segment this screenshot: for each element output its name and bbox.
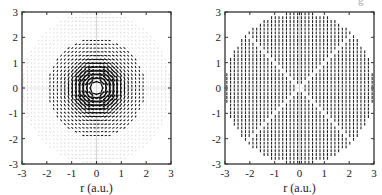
- y-tick-label: 2: [216, 31, 222, 43]
- x-tick-label: 0: [297, 167, 303, 179]
- title-fragment: g: [358, 0, 364, 6]
- y-tick-label: 0: [216, 82, 222, 94]
- y-tick-label: 1: [13, 57, 19, 69]
- x-tick-label: 2: [346, 167, 352, 179]
- y-tick-label: 3: [216, 6, 222, 18]
- y-tick-label: 3: [13, 6, 19, 18]
- radial-field-plot: -3-2-10123-3-2-10123r (a.u.): [191, 0, 382, 195]
- y-tick-label: 2: [13, 31, 19, 43]
- x-tick-label: -1: [270, 167, 279, 179]
- vortex-field-plot: -3-2-10123-3-2-10123r (a.u.): [0, 0, 191, 195]
- x-tick-label: 1: [322, 167, 328, 179]
- y-tick-label: -3: [212, 158, 222, 170]
- x-tick-label: 3: [168, 167, 174, 179]
- right-panel: -3-2-10123-3-2-10123r (a.u.): [191, 0, 382, 195]
- x-tick-label: -2: [42, 167, 51, 179]
- y-tick-label: 1: [216, 57, 222, 69]
- x-tick-label: -3: [17, 167, 27, 179]
- y-tick-label: 0: [13, 82, 19, 94]
- x-tick-label: -1: [67, 167, 76, 179]
- y-tick-label: -3: [9, 158, 19, 170]
- x-axis-label: r (a.u.): [283, 181, 315, 195]
- left-panel: -3-2-10123-3-2-10123r (a.u.): [0, 0, 191, 195]
- x-tick-label: -2: [245, 167, 254, 179]
- vector-field: [22, 12, 171, 164]
- x-axis-label: r (a.u.): [80, 181, 112, 195]
- x-tick-label: 3: [371, 167, 377, 179]
- x-tick-label: 2: [143, 167, 149, 179]
- vector-field: [225, 12, 374, 164]
- x-tick-label: 0: [94, 167, 100, 179]
- y-tick-label: -1: [212, 107, 221, 119]
- y-tick-label: -2: [212, 133, 221, 145]
- y-tick-label: -2: [9, 133, 18, 145]
- x-tick-label: -3: [220, 167, 230, 179]
- x-tick-label: 1: [119, 167, 125, 179]
- y-tick-label: -1: [9, 107, 18, 119]
